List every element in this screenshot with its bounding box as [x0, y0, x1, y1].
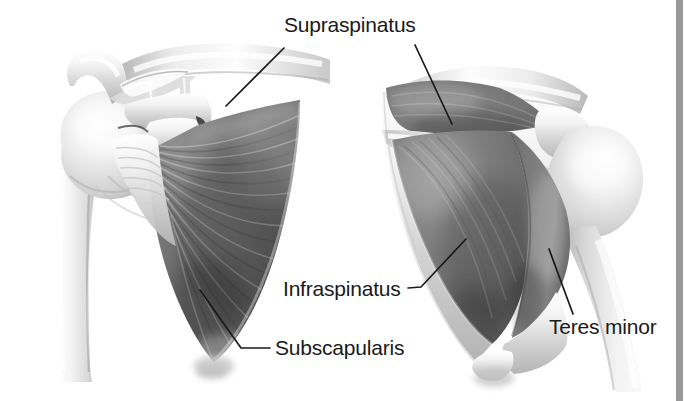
label-supraspinatus: Supraspinatus: [284, 14, 416, 35]
anatomy-illustration-page: Supraspinatus Infraspinatus Subscapulari…: [0, 0, 689, 401]
label-teres-minor: Teres minor: [549, 316, 657, 337]
right-edge-rule: [676, 0, 683, 401]
label-subscapularis: Subscapularis: [275, 337, 404, 358]
label-infraspinatus: Infraspinatus: [283, 278, 401, 299]
